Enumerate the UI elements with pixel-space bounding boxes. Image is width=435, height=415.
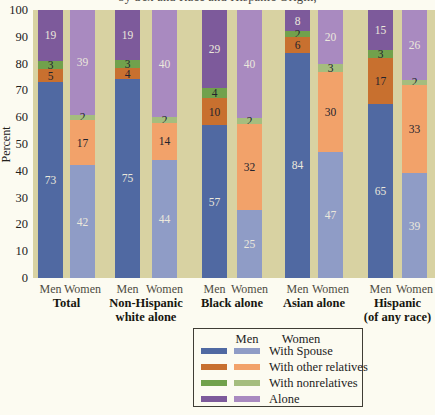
- bar-women-group2: 2532240: [237, 10, 262, 278]
- group-label-line: Hispanic: [374, 297, 421, 310]
- sex-label-men: Men: [40, 283, 62, 296]
- segment-value-label: 39: [77, 57, 89, 67]
- segment-value-label: 44: [159, 214, 171, 224]
- group-label-line: Black alone: [201, 297, 263, 310]
- legend-entry-label: With Spouse: [269, 344, 333, 359]
- legend-swatch-women-with_other_relatives: [234, 364, 260, 370]
- segment-value-label: 42: [77, 217, 89, 227]
- bar-women-group4: 3933226: [402, 10, 427, 278]
- y-tick-label: 100: [1, 3, 28, 17]
- sex-label-men: Men: [117, 283, 139, 296]
- legend-swatch-men-with_other_relatives: [201, 364, 227, 370]
- sex-label-men: Men: [204, 283, 226, 296]
- legend-entry-label: Alone: [269, 392, 300, 407]
- y-tick-label: 80: [1, 57, 28, 71]
- y-tick-label: 0: [1, 271, 28, 285]
- sex-label-women: Women: [64, 283, 101, 296]
- legend-entry-label: With nonrelatives: [269, 376, 358, 391]
- segment-value-label: 19: [122, 30, 134, 40]
- segment-value-label: 40: [159, 59, 171, 69]
- legend-swatch-men-with_spouse: [201, 348, 227, 354]
- segment-alone: 19: [38, 10, 63, 61]
- sex-label-women: Women: [312, 283, 349, 296]
- segment-value-label: 30: [325, 107, 337, 117]
- legend-swatch-women-with_spouse: [234, 348, 260, 354]
- legend-swatch-women-with_nonrelatives: [234, 380, 260, 386]
- y-tick-label: 40: [1, 164, 28, 178]
- segment-alone: 19: [115, 10, 140, 60]
- segment-with_other_relatives: 30: [318, 72, 343, 152]
- segment-with_other_relatives: 4: [115, 68, 140, 79]
- segment-value-label: 29: [209, 44, 221, 54]
- segment-with_nonrelatives: 4: [202, 88, 227, 99]
- y-tick-label: 90: [1, 30, 28, 44]
- group-label-line: Non-Hispanic: [109, 297, 183, 310]
- y-tick-label: 20: [1, 217, 28, 231]
- segment-value-label: 39: [409, 221, 421, 231]
- bar-women-group0: 4217239: [70, 10, 95, 278]
- group-label-line: Total: [53, 297, 80, 310]
- y-tick-label: 10: [1, 244, 28, 258]
- segment-with_spouse: 47: [318, 152, 343, 278]
- y-tick-label: 50: [1, 137, 28, 151]
- legend-row-alone: Alone: [194, 392, 362, 408]
- sex-label-men: Men: [370, 283, 392, 296]
- segment-alone: 40: [152, 10, 177, 117]
- segment-value-label: 6: [295, 40, 301, 50]
- legend-swatch-men-alone: [201, 396, 227, 402]
- group-label-line: Asian alone: [283, 297, 345, 310]
- segment-with_other_relatives: 10: [202, 98, 227, 125]
- segment-with_other_relatives: 17: [70, 120, 95, 166]
- bar-women-group1: 4414240: [152, 10, 177, 278]
- y-tick-label: 30: [1, 191, 28, 205]
- segment-value-label: 73: [45, 175, 57, 185]
- segment-with_nonrelatives: 3: [318, 64, 343, 72]
- legend-swatch-women-alone: [234, 396, 260, 402]
- segment-with_spouse: 75: [115, 79, 140, 278]
- segment-with_spouse: 65: [368, 104, 393, 278]
- bar-women-group3: 4730320: [318, 10, 343, 278]
- segment-with_spouse: 73: [38, 82, 63, 278]
- segment-value-label: 10: [209, 107, 221, 117]
- segment-value-label: 32: [244, 162, 256, 172]
- sex-label-women: Women: [396, 283, 433, 296]
- segment-value-label: 15: [375, 25, 387, 35]
- bar-men-group2: 5710429: [202, 10, 227, 278]
- segment-value-label: 4: [125, 69, 131, 79]
- segment-with_other_relatives: 33: [402, 85, 427, 173]
- segment-value-label: 20: [325, 32, 337, 42]
- segment-with_other_relatives: 32: [237, 124, 262, 211]
- sex-label-women: Women: [231, 283, 268, 296]
- segment-value-label: 4: [212, 88, 218, 98]
- sex-label-women: Women: [146, 283, 183, 296]
- segment-value-label: 47: [325, 210, 337, 220]
- segment-value-label: 65: [375, 186, 387, 196]
- segment-with_other_relatives: 6: [285, 37, 310, 53]
- segment-with_spouse: 42: [70, 165, 95, 278]
- legend-entry-label: With other relatives: [269, 360, 368, 375]
- segment-value-label: 19: [45, 30, 57, 40]
- plot-area: 7353194217239754319441424057104292532240…: [33, 10, 435, 278]
- segment-with_other_relatives: 17: [368, 58, 393, 104]
- segment-value-label: 17: [77, 138, 89, 148]
- legend-swatch-men-with_nonrelatives: [201, 380, 227, 386]
- legend-row-with_spouse: With Spouse: [194, 344, 362, 360]
- bar-men-group1: 754319: [115, 10, 140, 278]
- group-label-line: white alone: [116, 311, 177, 324]
- segment-with_nonrelatives: 3: [368, 50, 393, 58]
- segment-alone: 20: [318, 10, 343, 64]
- group-label-line: (of any race): [364, 311, 431, 324]
- segment-value-label: 5: [48, 71, 54, 81]
- segment-value-label: 8: [295, 16, 301, 26]
- segment-value-label: 26: [409, 40, 421, 50]
- segment-with_spouse: 57: [202, 125, 227, 278]
- bar-men-group4: 6517315: [368, 10, 393, 278]
- segment-with_spouse: 25: [237, 210, 262, 278]
- segment-with_spouse: 44: [152, 160, 177, 278]
- segment-with_spouse: 39: [402, 173, 427, 278]
- segment-alone: 29: [202, 10, 227, 88]
- figure: by Sex and Race and Hispanic Origin, Per…: [0, 0, 435, 415]
- segment-alone: 39: [70, 10, 95, 115]
- bar-men-group0: 735319: [38, 10, 63, 278]
- figure-title-partial: by Sex and Race and Hispanic Origin,: [0, 0, 435, 5]
